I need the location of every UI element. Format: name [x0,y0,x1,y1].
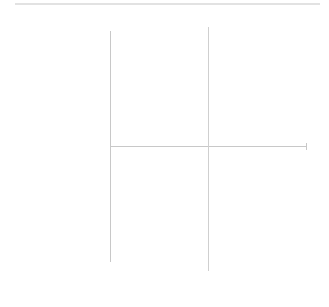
phase-divider [208,27,209,271]
baseline-end-cap [306,143,307,150]
top-rule [15,3,320,5]
